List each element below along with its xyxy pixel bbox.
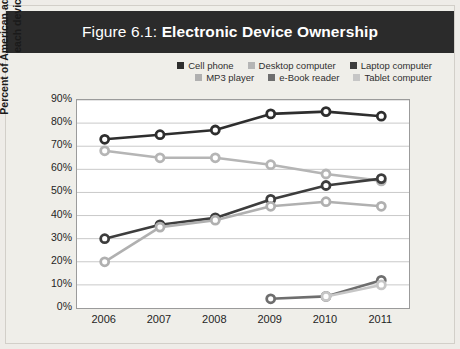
- legend-swatch-icon: [248, 62, 255, 69]
- data-point-marker[interactable]: [322, 108, 330, 116]
- figure-container: Figure 6.1: Electronic Device Ownership …: [0, 0, 460, 349]
- data-point-marker[interactable]: [101, 235, 109, 243]
- series-line: [105, 202, 382, 262]
- y-axis-tick-label: 50%: [38, 184, 72, 196]
- x-axis-tick-label: 2007: [134, 313, 184, 325]
- legend-swatch-icon: [177, 62, 184, 69]
- y-axis-tick-label: 30%: [38, 231, 72, 243]
- legend-row-2: MP3 player e-Book reader Tablet computer: [195, 72, 454, 83]
- plot-area: [76, 99, 410, 309]
- legend-label: MP3 player: [206, 72, 254, 83]
- data-point-marker[interactable]: [267, 161, 275, 169]
- legend-item-laptop-computer[interactable]: Laptop computer: [350, 60, 432, 71]
- x-axis-tick-label: 2006: [79, 313, 129, 325]
- chart-canvas: [77, 100, 409, 308]
- data-point-marker[interactable]: [377, 202, 385, 210]
- legend-label: Cell phone: [188, 60, 233, 71]
- legend-item-cell-phone[interactable]: Cell phone: [177, 60, 233, 71]
- data-point-marker[interactable]: [267, 110, 275, 118]
- y-axis-tick-label: 40%: [38, 208, 72, 220]
- y-axis-tick-label: 60%: [38, 161, 72, 173]
- legend-label: Tablet computer: [364, 72, 432, 83]
- y-axis-tick-label: 10%: [38, 277, 72, 289]
- series-line: [105, 151, 382, 181]
- series-line: [105, 179, 382, 239]
- figure-title-bar: Figure 6.1: Electronic Device Ownership: [6, 11, 454, 53]
- legend-item-mp3-player[interactable]: MP3 player: [195, 72, 254, 83]
- legend-item-desktop-computer[interactable]: Desktop computer: [248, 60, 336, 71]
- y-axis-tick-label: 70%: [38, 138, 72, 150]
- data-point-marker[interactable]: [267, 202, 275, 210]
- legend-swatch-icon: [268, 74, 275, 81]
- x-axis-tick-label: 2008: [189, 313, 239, 325]
- data-point-marker[interactable]: [211, 154, 219, 162]
- data-point-marker[interactable]: [156, 223, 164, 231]
- data-point-marker[interactable]: [211, 126, 219, 134]
- data-point-marker[interactable]: [377, 112, 385, 120]
- series-line: [326, 285, 381, 297]
- x-axis-ticks: 200620072008200920102011: [76, 313, 410, 333]
- page-title: Figure 6.1: Electronic Device Ownership: [82, 23, 378, 41]
- legend-label: Laptop computer: [361, 60, 432, 71]
- y-axis-tick-label: 0%: [38, 300, 72, 312]
- y-axis-ticks: 0%10%20%30%40%50%60%70%80%90%: [38, 0, 72, 349]
- legend-item-tablet-computer[interactable]: Tablet computer: [353, 72, 432, 83]
- data-point-marker[interactable]: [101, 135, 109, 143]
- chart-legend: Cell phone Desktop computer Laptop compu…: [6, 60, 454, 83]
- x-axis-tick-label: 2011: [355, 313, 405, 325]
- legend-swatch-icon: [353, 74, 360, 81]
- y-axis-title: Percent of American adults who own each …: [0, 0, 24, 118]
- figure-title: Electronic Device Ownership: [162, 23, 378, 40]
- legend-label: e-Book reader: [279, 72, 339, 83]
- legend-row-1: Cell phone Desktop computer Laptop compu…: [177, 60, 454, 71]
- data-point-marker[interactable]: [267, 295, 275, 303]
- legend-item-ebook-reader[interactable]: e-Book reader: [268, 72, 339, 83]
- x-axis-tick-label: 2010: [300, 313, 350, 325]
- y-axis-tick-label: 90%: [38, 92, 72, 104]
- y-axis-tick-label: 20%: [38, 254, 72, 266]
- legend-label: Desktop computer: [259, 60, 336, 71]
- data-point-marker[interactable]: [377, 175, 385, 183]
- data-point-marker[interactable]: [322, 170, 330, 178]
- legend-swatch-icon: [195, 74, 202, 81]
- data-point-marker[interactable]: [322, 198, 330, 206]
- data-point-marker[interactable]: [377, 281, 385, 289]
- data-point-marker[interactable]: [101, 147, 109, 155]
- figure-number: Figure 6.1:: [82, 23, 157, 40]
- data-point-marker[interactable]: [156, 131, 164, 139]
- x-axis-tick-label: 2009: [245, 313, 295, 325]
- y-axis-tick-label: 80%: [38, 115, 72, 127]
- data-point-marker[interactable]: [211, 216, 219, 224]
- data-point-marker[interactable]: [322, 292, 330, 300]
- data-point-marker[interactable]: [101, 258, 109, 266]
- series-line: [105, 112, 382, 140]
- data-point-marker[interactable]: [156, 154, 164, 162]
- data-point-marker[interactable]: [322, 182, 330, 190]
- legend-swatch-icon: [350, 62, 357, 69]
